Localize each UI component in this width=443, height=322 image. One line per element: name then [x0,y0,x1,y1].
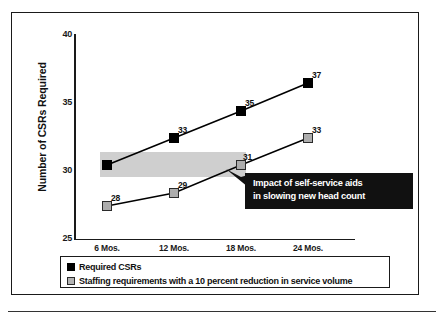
legend-item-staffing: Staffing requirements with a 10 percent … [67,274,389,287]
data-label-required-12mos: 33 [178,125,187,135]
callout-line-1: Impact of self-service aids [253,177,407,190]
plot-area: Number of CSRs Required 40 35 30 25 6 Mo… [12,13,420,296]
series-required-csrs-line [107,83,308,165]
legend-swatch-black-square-icon [67,263,75,271]
data-label-staffing-24mos: 33 [312,125,321,135]
legend-swatch-gray-square-icon [67,277,75,285]
data-label-staffing-6mos: 28 [111,193,120,203]
series-lines [12,13,420,296]
data-label-required-18mos: 35 [245,98,254,108]
legend-label-staffing: Staffing requirements with a 10 percent … [79,276,352,286]
legend-label-required-csrs: Required CSRs [79,262,141,272]
legend-item-required-csrs: Required CSRs [67,260,389,273]
callout-line-2: in slowing new head count [253,190,407,203]
legend: Required CSRs Staffing requirements with… [60,256,390,288]
data-label-required-24mos: 37 [312,70,321,80]
data-label-staffing-12mos: 29 [178,180,187,190]
bottom-rule [8,311,436,312]
data-label-staffing-18mos: 31 [243,152,252,162]
figure-frame: Number of CSRs Required 40 35 30 25 6 Mo… [11,12,419,295]
data-point-required-6mos[interactable] [102,160,112,170]
impact-callout: Impact of self-service aids in slowing n… [245,173,413,209]
